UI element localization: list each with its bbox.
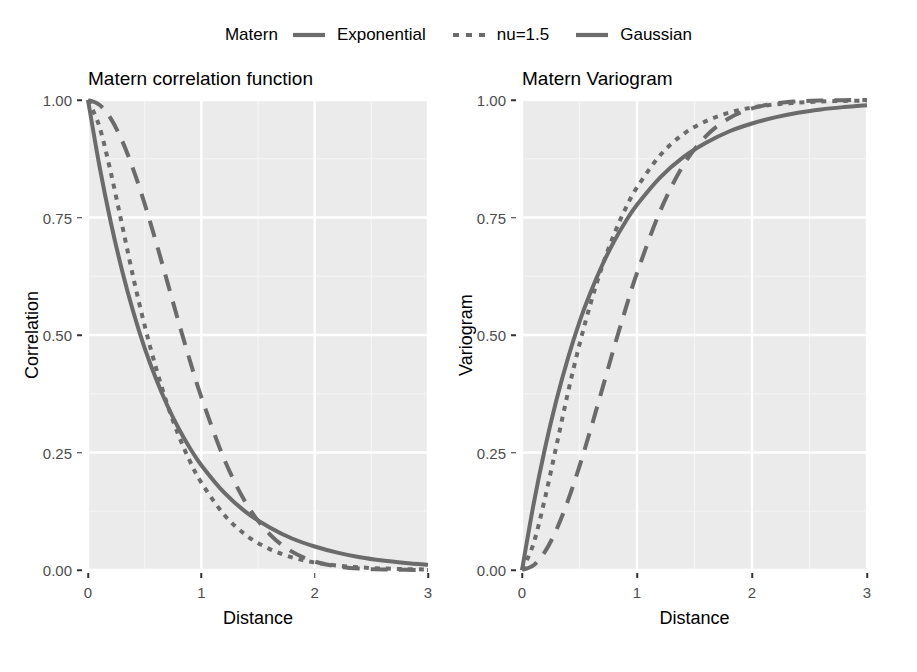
y-tick-label: 1.00	[477, 92, 506, 109]
x-axis-title-variogram: Distance	[522, 608, 867, 629]
y-tick-mark	[77, 99, 82, 101]
y-tick-label: 0.25	[43, 444, 72, 461]
y-tick-mark	[77, 452, 82, 454]
legend-entry-nu15[interactable]: nu=1.5	[452, 24, 549, 46]
y-tick-label: 0.00	[477, 562, 506, 579]
x-tick-mark	[521, 573, 523, 578]
legend-entry-gaussian[interactable]: Gaussian	[575, 24, 692, 46]
series-line	[522, 105, 867, 570]
y-tick-mark	[511, 334, 516, 336]
plot-area-correlation	[88, 100, 428, 570]
x-tick-label: 1	[197, 584, 205, 601]
panel-title-correlation: Matern correlation function	[88, 68, 313, 90]
y-tick-label: 0.75	[477, 209, 506, 226]
x-tick-label: 2	[310, 584, 318, 601]
panel-correlation: Matern correlation function 0.000.250.50…	[0, 60, 450, 672]
y-tick-mark	[77, 569, 82, 571]
x-tick-mark	[866, 573, 868, 578]
curves-correlation	[88, 100, 428, 570]
y-tick-mark	[77, 217, 82, 219]
legend-entry-exponential[interactable]: Exponential	[292, 24, 426, 46]
x-tick-label: 3	[863, 584, 871, 601]
y-tick-label: 0.50	[43, 327, 72, 344]
plot-area-variogram	[522, 100, 867, 570]
x-axis-ticks-correlation: 0123	[88, 572, 428, 606]
legend-key-exponential	[292, 24, 326, 46]
x-tick-mark	[201, 573, 203, 578]
panel-variogram: Matern Variogram 0.000.250.500.751.00 01…	[450, 60, 917, 672]
series-line	[88, 100, 428, 565]
x-axis-title-correlation: Distance	[88, 608, 428, 629]
x-axis-ticks-variogram: 0123	[522, 572, 867, 606]
curves-variogram	[522, 100, 867, 570]
x-tick-mark	[314, 573, 316, 578]
y-tick-label: 1.00	[43, 92, 72, 109]
y-tick-mark	[77, 334, 82, 336]
x-tick-mark	[427, 573, 429, 578]
legend: Matern Exponential nu=1.5	[0, 18, 917, 52]
y-tick-mark	[511, 217, 516, 219]
x-tick-label: 2	[748, 584, 756, 601]
x-tick-label: 0	[84, 584, 92, 601]
legend-label-nu15: nu=1.5	[497, 25, 549, 45]
y-tick-label: 0.25	[477, 444, 506, 461]
y-tick-label: 0.75	[43, 209, 72, 226]
panel-title-variogram: Matern Variogram	[522, 68, 673, 90]
x-tick-mark	[636, 573, 638, 578]
y-tick-mark	[511, 452, 516, 454]
x-tick-mark	[751, 573, 753, 578]
legend-key-gaussian	[575, 24, 609, 46]
y-axis-title-variogram: Variogram	[456, 294, 477, 376]
legend-title: Matern	[225, 25, 278, 45]
legend-key-nu15	[452, 24, 486, 46]
y-tick-label: 0.00	[43, 562, 72, 579]
y-tick-mark	[511, 99, 516, 101]
y-tick-mark	[511, 569, 516, 571]
x-tick-label: 0	[518, 584, 526, 601]
x-tick-label: 1	[633, 584, 641, 601]
legend-label-gaussian: Gaussian	[620, 25, 692, 45]
y-tick-label: 0.50	[477, 327, 506, 344]
x-tick-label: 3	[424, 584, 432, 601]
y-axis-title-correlation: Correlation	[22, 291, 43, 379]
x-tick-mark	[87, 573, 89, 578]
figure-root: Matern Exponential nu=1.5	[0, 0, 917, 672]
legend-label-exponential: Exponential	[337, 25, 426, 45]
